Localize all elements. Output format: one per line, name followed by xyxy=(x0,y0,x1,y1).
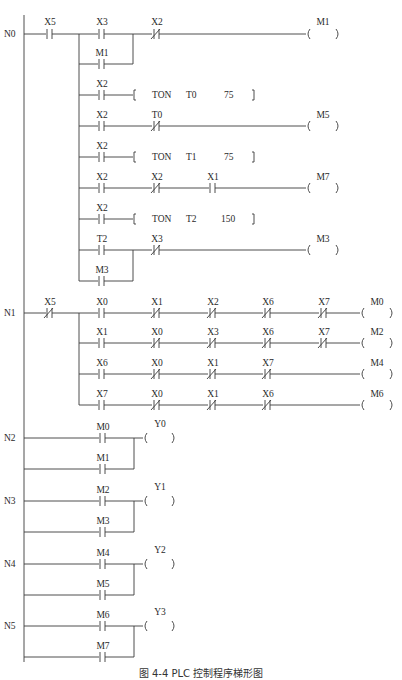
coil-label: M5 xyxy=(316,110,329,120)
contact-label: X6 xyxy=(262,389,274,399)
contact-label: X0 xyxy=(151,327,163,337)
contact-label: X1 xyxy=(207,172,219,182)
contact-label: X2 xyxy=(96,203,108,213)
contact-label: X1 xyxy=(207,389,219,399)
contact-label: M3 xyxy=(95,265,108,275)
contact-label: X1 xyxy=(96,327,108,337)
figure-caption: 图 4-4 PLC 控制程序梯形图 xyxy=(0,665,402,680)
contact-label: M0 xyxy=(96,422,109,432)
contact-label: X3 xyxy=(96,17,108,27)
contact-label: M3 xyxy=(96,516,109,526)
contact-label: M1 xyxy=(96,453,109,463)
contact-label: X3 xyxy=(151,234,163,244)
timer-op: TON xyxy=(152,152,171,162)
rung-label-n0: N0 xyxy=(4,29,16,39)
timer-operand: T1 xyxy=(186,152,197,162)
contact-label: T2 xyxy=(97,234,108,244)
rung-label-n4: N4 xyxy=(4,559,16,569)
rung-label-n2: N2 xyxy=(4,433,16,443)
coil-label: M1 xyxy=(316,17,329,27)
timer-preset: 75 xyxy=(224,152,234,162)
contact-label: X7 xyxy=(262,358,274,368)
rung-label-n5: N5 xyxy=(4,621,16,631)
contact-label: X7 xyxy=(318,327,330,337)
contact-label: X2 xyxy=(151,17,163,27)
coil-label: Y0 xyxy=(154,419,166,429)
contact-label: M4 xyxy=(96,548,109,558)
timer-operand: T0 xyxy=(186,90,197,100)
contact-label: X1 xyxy=(151,297,163,307)
timer-preset: 150 xyxy=(221,214,235,224)
contact-label: X5 xyxy=(44,297,56,307)
contact-label: X5 xyxy=(44,17,56,27)
contact-label: X2 xyxy=(96,141,108,151)
rung-label-n1: N1 xyxy=(4,308,16,318)
contact-label: M5 xyxy=(96,579,109,589)
contact-label: X0 xyxy=(96,297,108,307)
contact-label: T0 xyxy=(152,110,163,120)
contact-label: M1 xyxy=(95,48,108,58)
rung-label-n3: N3 xyxy=(4,496,16,506)
timer-preset: 75 xyxy=(224,90,234,100)
contact-label: M7 xyxy=(96,641,109,651)
contact-label: X1 xyxy=(207,358,219,368)
coil-label: M3 xyxy=(316,234,329,244)
contact-label: X2 xyxy=(96,172,108,182)
coil-label: M6 xyxy=(370,389,383,399)
contact-label: X6 xyxy=(96,358,108,368)
contact-label: M6 xyxy=(96,610,109,620)
timer-operand: T2 xyxy=(186,214,197,224)
coil-label: M0 xyxy=(370,297,383,307)
coil-label: Y2 xyxy=(154,545,166,555)
coil-label: Y1 xyxy=(154,482,166,492)
coil-label: Y3 xyxy=(154,607,166,617)
timer-op: TON xyxy=(152,214,171,224)
contact-label: X2 xyxy=(96,110,108,120)
contact-label: X3 xyxy=(207,327,219,337)
contact-label: X2 xyxy=(151,172,163,182)
coil-label: M2 xyxy=(370,327,383,337)
coil-label: M7 xyxy=(316,172,329,182)
coil-label: M4 xyxy=(370,358,383,368)
contact-label: X2 xyxy=(96,79,108,89)
contact-label: X0 xyxy=(151,358,163,368)
contact-label: X2 xyxy=(207,297,219,307)
contact-label: X7 xyxy=(318,297,330,307)
contact-label: X6 xyxy=(262,297,274,307)
contact-label: M2 xyxy=(96,485,109,495)
contact-label: X7 xyxy=(96,389,108,399)
contact-label: X0 xyxy=(151,389,163,399)
timer-op: TON xyxy=(152,90,171,100)
contact-label: X6 xyxy=(262,327,274,337)
